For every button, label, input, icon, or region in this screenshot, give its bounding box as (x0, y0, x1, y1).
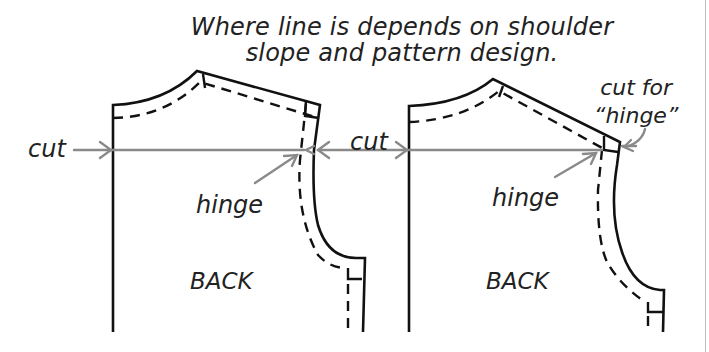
diagram-caption: Where line is depends on shoulder slope … (0, 14, 709, 66)
hinge-label-left: hinge (196, 191, 263, 219)
back-label-right: BACK (486, 268, 549, 294)
hinge-label-right: hinge (492, 184, 559, 212)
cut-for-line-1: cut for (594, 74, 678, 102)
cut-label-left: cut (28, 135, 66, 163)
cut-label-middle: cut (350, 128, 388, 156)
right-border-line (705, 0, 706, 352)
back-label-left: BACK (190, 268, 253, 294)
cut-for-line-2: “hinge” (594, 102, 678, 130)
caption-line-2: slope and pattern design. (95, 40, 709, 66)
caption-line-1: Where line is depends on shoulder (95, 14, 709, 40)
cut-for-hinge-label: cut for “hinge” (594, 74, 678, 130)
